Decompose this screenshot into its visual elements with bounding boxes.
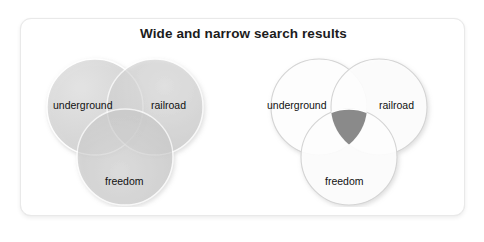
narrow-label-underground: underground bbox=[267, 99, 327, 111]
narrow-search-venn: underground railroad freedom bbox=[249, 47, 459, 207]
wide-label-railroad: railroad bbox=[151, 99, 186, 111]
wide-search-venn: underground railroad freedom bbox=[29, 47, 229, 207]
wide-label-underground: underground bbox=[53, 99, 113, 111]
page-title: Wide and narrow search results bbox=[21, 26, 466, 41]
narrow-label-freedom: freedom bbox=[325, 175, 364, 187]
wide-label-freedom: freedom bbox=[105, 175, 144, 187]
narrow-label-railroad: railroad bbox=[379, 99, 414, 111]
illustration-card: Wide and narrow search results bbox=[20, 18, 465, 216]
wide-circle-freedom bbox=[77, 109, 173, 205]
screenshot-root: Wide and narrow search results bbox=[0, 0, 484, 242]
